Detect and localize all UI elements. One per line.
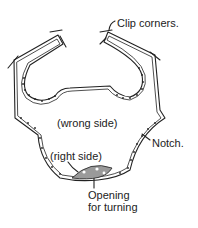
- opening-label-line1: Opening: [88, 189, 138, 201]
- clip-corners-label: Clip corners.: [117, 17, 179, 29]
- opening-label-line2: for turning: [88, 201, 138, 213]
- right-side-label: (right side): [50, 150, 102, 162]
- clip-corners-leader: [109, 21, 115, 30]
- wrong-side-label: (wrong side): [57, 117, 118, 129]
- opening-label: Opening for turning: [88, 189, 138, 213]
- right-side-leader: [68, 162, 78, 172]
- notch-label: Notch.: [152, 137, 184, 149]
